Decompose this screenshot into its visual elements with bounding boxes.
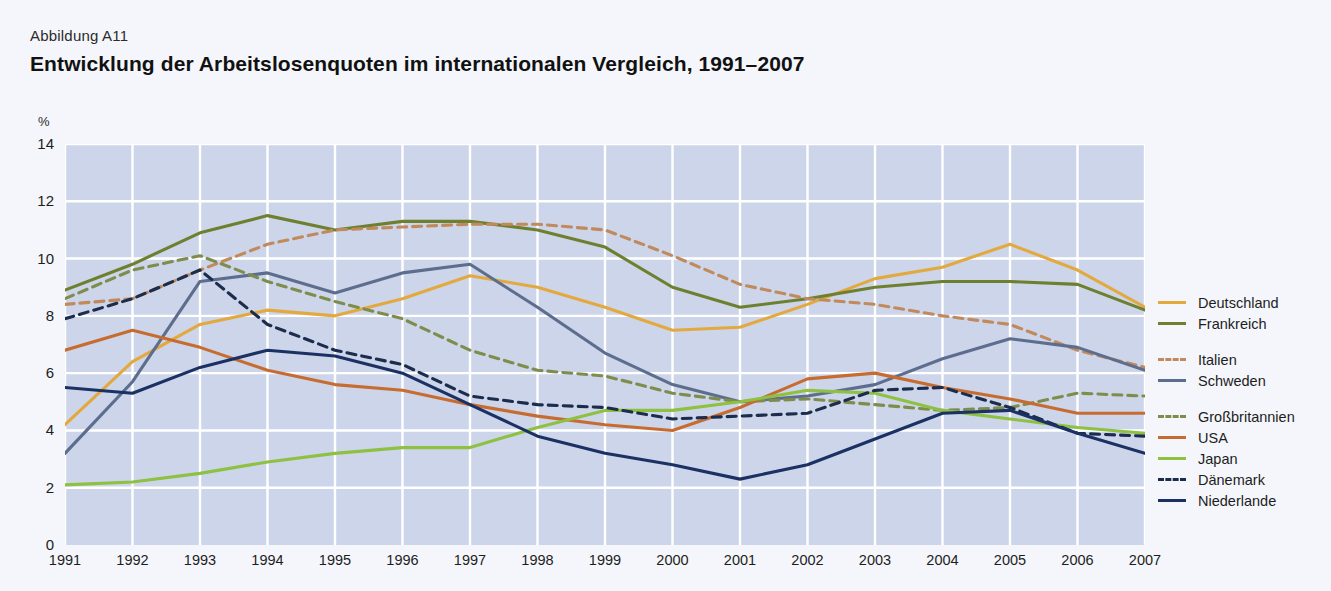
legend-item-d-nemark[interactable]: Dänemark [1158, 469, 1328, 490]
y-tick-label: 4 [12, 421, 54, 438]
legend-item-label: Japan [1198, 451, 1238, 467]
x-tick-label: 1999 [570, 552, 640, 568]
x-tick-label: 2003 [840, 552, 910, 568]
legend-item-frankreich[interactable]: Frankreich [1158, 313, 1328, 334]
legend-item-label: USA [1198, 430, 1228, 446]
x-tick-label: 1996 [368, 552, 438, 568]
x-tick-label: 2002 [773, 552, 843, 568]
x-tick-label: 1991 [30, 552, 100, 568]
y-tick-label: 12 [12, 192, 54, 209]
x-tick-label: 1994 [233, 552, 303, 568]
legend-swatch-icon [1158, 415, 1186, 418]
legend-item-label: Großbritannien [1198, 409, 1295, 425]
figure-number: Abbildung A11 [30, 27, 128, 44]
legend-swatch-icon [1158, 322, 1186, 325]
legend-item-label: Dänemark [1198, 472, 1265, 488]
legend-item-label: Frankreich [1198, 316, 1267, 332]
page-title: Entwicklung der Arbeitslosenquoten im in… [30, 52, 805, 76]
legend-item-label: Schweden [1198, 373, 1266, 389]
chart-plot-area [65, 144, 1145, 545]
y-axis-unit-label: % [38, 114, 50, 129]
legend-swatch-icon [1158, 436, 1186, 439]
x-tick-label: 1997 [435, 552, 505, 568]
legend-swatch-icon [1158, 358, 1186, 361]
legend-item-niederlande[interactable]: Niederlande [1158, 490, 1328, 511]
y-tick-label: 6 [12, 364, 54, 381]
legend-swatch-icon [1158, 301, 1186, 304]
y-tick-label: 10 [12, 250, 54, 267]
x-tick-label: 2000 [638, 552, 708, 568]
legend-item-japan[interactable]: Japan [1158, 448, 1328, 469]
x-tick-label: 2004 [908, 552, 978, 568]
chart-lines-svg [65, 144, 1145, 545]
chart-legend: DeutschlandFrankreichItalienSchwedenGroß… [1158, 292, 1328, 511]
legend-item-schweden[interactable]: Schweden [1158, 370, 1328, 391]
y-tick-label: 2 [12, 479, 54, 496]
legend-item-deutschland[interactable]: Deutschland [1158, 292, 1328, 313]
x-tick-label: 2007 [1110, 552, 1180, 568]
legend-item-label: Italien [1198, 352, 1237, 368]
legend-swatch-icon [1158, 379, 1186, 382]
y-tick-label: 8 [12, 307, 54, 324]
x-tick-label: 1993 [165, 552, 235, 568]
legend-swatch-icon [1158, 457, 1186, 460]
x-tick-label: 2005 [975, 552, 1045, 568]
x-tick-label: 1995 [300, 552, 370, 568]
legend-swatch-icon [1158, 499, 1186, 502]
y-tick-label: 14 [12, 135, 54, 152]
legend-item-italien[interactable]: Italien [1158, 349, 1328, 370]
legend-swatch-icon [1158, 478, 1186, 481]
x-tick-label: 2006 [1043, 552, 1113, 568]
legend-item-label: Niederlande [1198, 493, 1276, 509]
x-tick-label: 1998 [503, 552, 573, 568]
legend-item-gro-britannien[interactable]: Großbritannien [1158, 406, 1328, 427]
x-tick-label: 2001 [705, 552, 775, 568]
legend-item-label: Deutschland [1198, 295, 1279, 311]
legend-item-usa[interactable]: USA [1158, 427, 1328, 448]
y-tick-label: 0 [12, 536, 54, 553]
x-tick-label: 1992 [98, 552, 168, 568]
